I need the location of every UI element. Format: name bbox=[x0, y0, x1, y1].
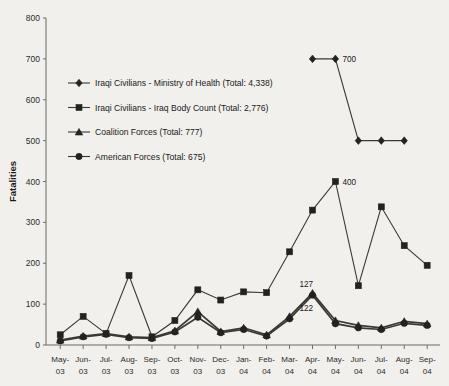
data-point-square bbox=[287, 249, 293, 255]
y-tick-label: 0 bbox=[35, 340, 40, 350]
x-tick-label: 03 bbox=[193, 367, 202, 376]
x-tick-label: Oct- bbox=[167, 355, 182, 364]
data-point-circle bbox=[103, 331, 109, 337]
x-tick-label: 03 bbox=[102, 367, 111, 376]
data-point-square bbox=[80, 313, 86, 319]
data-point-square bbox=[378, 204, 384, 210]
series-line bbox=[313, 59, 405, 141]
data-point-circle bbox=[378, 326, 384, 332]
x-tick-label: Dec- bbox=[212, 355, 229, 364]
data-point-diamond bbox=[309, 55, 315, 63]
data-point-circle bbox=[57, 338, 63, 344]
x-tick-label: Jul- bbox=[100, 355, 113, 364]
x-tick-label: Aug- bbox=[396, 355, 413, 364]
y-axis-title: Fatalities bbox=[7, 161, 18, 202]
data-point-circle bbox=[309, 292, 315, 298]
x-tick-label: 04 bbox=[354, 367, 363, 376]
series-3 bbox=[57, 292, 430, 344]
data-point-triangle bbox=[194, 308, 202, 315]
y-tick-label: 200 bbox=[26, 258, 40, 268]
data-point-circle bbox=[424, 322, 430, 328]
data-point-circle bbox=[263, 333, 269, 339]
x-tick-label: Sep- bbox=[419, 355, 436, 364]
data-point-circle bbox=[286, 316, 292, 322]
data-label: 122 bbox=[299, 304, 313, 313]
chart-canvas: 0100200300400500600700800FatalitiesMay-0… bbox=[0, 0, 449, 386]
data-point-circle bbox=[240, 326, 246, 332]
legend-item-1: Iraqi Civilians - Iraq Body Count (Total… bbox=[68, 103, 269, 113]
data-point-circle bbox=[355, 325, 361, 331]
x-tick-label: 03 bbox=[56, 367, 65, 376]
x-tick-label: 04 bbox=[331, 367, 340, 376]
data-point-circle bbox=[80, 334, 86, 340]
series-line bbox=[60, 182, 427, 337]
x-tick-label: May- bbox=[51, 355, 69, 364]
x-tick-label: 04 bbox=[400, 367, 409, 376]
x-tick-label: Nov- bbox=[189, 355, 206, 364]
data-point-diamond bbox=[355, 137, 361, 145]
series-0 bbox=[309, 55, 407, 144]
x-tick-label: Sep- bbox=[144, 355, 161, 364]
x-tick-label: Jun- bbox=[351, 355, 367, 364]
y-tick-label: 800 bbox=[26, 13, 40, 23]
series-line bbox=[60, 293, 427, 340]
x-tick-label: Mar- bbox=[281, 355, 298, 364]
legend-label: Iraqi Civilians - Ministry of Health (To… bbox=[95, 78, 273, 88]
data-point-diamond bbox=[401, 137, 407, 145]
y-tick-label: 500 bbox=[26, 136, 40, 146]
x-tick-label: Aug- bbox=[121, 355, 138, 364]
data-point-square bbox=[241, 289, 247, 295]
data-point-circle bbox=[149, 335, 155, 341]
legend-item-3: American Forces (Total: 675) bbox=[68, 152, 205, 162]
x-tick-label: Jul- bbox=[375, 355, 388, 364]
data-point-circle bbox=[332, 321, 338, 327]
data-point-square bbox=[126, 273, 132, 279]
data-point-circle bbox=[218, 330, 224, 336]
x-tick-label: Apr- bbox=[305, 355, 320, 364]
x-tick-label: Jun- bbox=[75, 355, 91, 364]
x-tick-label: 04 bbox=[377, 367, 386, 376]
data-point-circle bbox=[195, 314, 201, 320]
fatalities-chart: 0100200300400500600700800FatalitiesMay-0… bbox=[0, 0, 449, 386]
data-point-diamond bbox=[378, 137, 384, 145]
data-label: 700 bbox=[342, 55, 356, 64]
data-point-square bbox=[332, 179, 338, 185]
x-tick-label: 04 bbox=[285, 367, 294, 376]
data-point-square bbox=[355, 283, 361, 289]
legend-label: Coalition Forces (Total: 777) bbox=[95, 127, 203, 137]
data-point-circle bbox=[126, 334, 132, 340]
x-tick-label: 03 bbox=[170, 367, 179, 376]
legend-label: American Forces (Total: 675) bbox=[95, 152, 205, 162]
data-point-square bbox=[424, 262, 430, 268]
data-point-square bbox=[309, 207, 315, 213]
y-tick-label: 600 bbox=[26, 95, 40, 105]
data-point-square bbox=[195, 287, 201, 293]
data-point-square bbox=[264, 290, 270, 296]
x-tick-label: 03 bbox=[148, 367, 157, 376]
data-point-square bbox=[76, 105, 82, 111]
legend-item-0: Iraqi Civilians - Ministry of Health (To… bbox=[68, 78, 273, 88]
x-tick-label: May- bbox=[327, 355, 345, 364]
y-tick-label: 700 bbox=[26, 54, 40, 64]
data-point-diamond bbox=[332, 55, 338, 63]
x-tick-label: 03 bbox=[216, 367, 225, 376]
data-point-square bbox=[172, 317, 178, 323]
x-tick-label: Jan- bbox=[236, 355, 252, 364]
data-point-circle bbox=[76, 153, 82, 159]
legend-item-2: Coalition Forces (Total: 777) bbox=[68, 127, 203, 137]
y-tick-label: 400 bbox=[26, 177, 40, 187]
data-point-square bbox=[401, 243, 407, 249]
x-tick-label: Feb- bbox=[258, 355, 275, 364]
data-point-circle bbox=[172, 329, 178, 335]
series-1 bbox=[57, 179, 430, 340]
x-tick-label: 03 bbox=[125, 367, 134, 376]
legend-label: Iraqi Civilians - Iraq Body Count (Total… bbox=[95, 103, 269, 113]
x-tick-label: 04 bbox=[262, 367, 271, 376]
x-tick-label: 04 bbox=[239, 367, 248, 376]
data-label: 400 bbox=[342, 178, 356, 187]
data-label: 127 bbox=[299, 280, 313, 289]
data-point-diamond bbox=[76, 79, 82, 87]
y-tick-label: 100 bbox=[26, 299, 40, 309]
x-tick-label: 03 bbox=[79, 367, 88, 376]
data-point-square bbox=[218, 297, 224, 303]
